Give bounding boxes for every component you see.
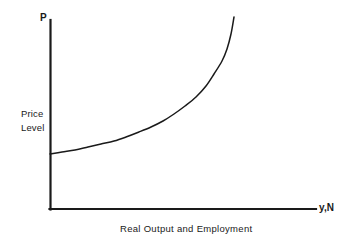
x-axis-caption: Real Output and Employment: [120, 224, 252, 234]
y-axis-title: P: [40, 13, 47, 24]
y-axis-description-line-2: Level: [21, 123, 44, 133]
y-axis-description: Price Level: [21, 109, 44, 134]
aggregate-supply-curve: [50, 17, 234, 154]
y-axis-description-line-1: Price: [21, 108, 43, 119]
chart-figure: P y,N Price Level Real Output and Employ…: [0, 0, 352, 242]
x-axis-title: y,N: [319, 203, 334, 214]
chart-canvas: [0, 0, 352, 242]
